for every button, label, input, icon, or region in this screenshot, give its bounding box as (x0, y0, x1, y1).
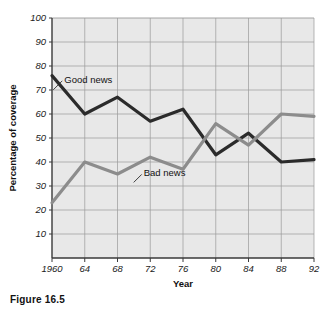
y-axis-tick-label: 70 (35, 84, 46, 95)
y-axis-tick-label: 10 (35, 228, 46, 239)
series-annotation-bad-news: Bad news (144, 167, 186, 178)
y-axis-tick-label: 100 (30, 12, 47, 23)
x-axis-tick-label: 64 (79, 263, 90, 274)
x-axis-tick-label: 88 (276, 263, 287, 274)
x-axis-tick-label: 92 (309, 263, 320, 274)
x-axis-tick-label: 76 (178, 263, 189, 274)
y-axis-tick-label: 30 (35, 180, 46, 191)
y-axis-tick-label: 40 (35, 156, 46, 167)
x-axis-tick-label: 1960 (41, 263, 63, 274)
x-axis-tick-label: 72 (145, 263, 156, 274)
y-axis-title: Percentage of coverage (7, 84, 18, 191)
y-axis-tick-labels: 102030405060708090100 (30, 12, 52, 239)
line-chart: 102030405060708090100 196064687276808488… (0, 0, 324, 290)
figure-container: 102030405060708090100 196064687276808488… (0, 0, 324, 316)
x-axis-title: Year (173, 278, 193, 289)
y-axis-tick-label: 90 (35, 36, 46, 47)
y-axis-tick-label: 20 (34, 204, 46, 215)
y-axis-tick-label: 80 (35, 60, 46, 71)
x-axis-tick-label: 68 (112, 263, 123, 274)
y-axis-tick-label: 60 (35, 108, 46, 119)
x-axis-tick-label: 80 (210, 263, 221, 274)
x-axis-tick-label: 84 (243, 263, 254, 274)
x-axis-tick-labels: 19606468727680848892 (41, 258, 320, 274)
figure-caption: Figure 16.5 (10, 294, 65, 305)
series-annotation-good-news: Good news (64, 74, 112, 85)
y-axis-tick-label: 50 (35, 132, 46, 143)
